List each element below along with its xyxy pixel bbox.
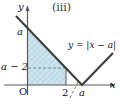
x-axis-label: x xyxy=(110,80,116,90)
x-tick-label-2: 2 xyxy=(62,88,68,98)
shaded-region-hatch-cross xyxy=(28,30,66,85)
curve-equation-label: y = |x − a| xyxy=(68,41,116,50)
math-figure-iii: (iii) y x O a a − 2 2 a y = |x − a| xyxy=(0,0,121,111)
y-tick-label-a: a xyxy=(17,27,23,37)
origin-label: O xyxy=(19,87,27,97)
y-axis-label: y xyxy=(18,2,24,12)
y-axis-arrowhead xyxy=(26,5,30,11)
figure-title: (iii) xyxy=(52,2,71,13)
x-tick-label-a: a xyxy=(79,88,85,98)
y-tick-label-a-minus-2: a − 2 xyxy=(1,62,28,72)
